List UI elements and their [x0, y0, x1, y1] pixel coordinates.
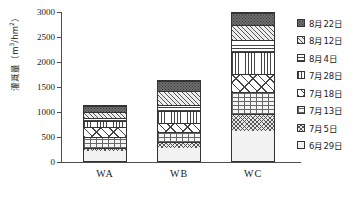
legend-item[interactable]: 8月12日 — [297, 32, 358, 50]
x-axis-tick-label-wb: WB — [149, 168, 209, 179]
y-axis-tick-label: 500 — [21, 133, 55, 142]
y-axis-tick-label: 2000 — [21, 58, 55, 67]
y-axis-tick-label: 1500 — [21, 83, 55, 92]
bar-segment — [232, 25, 274, 40]
y-axis-tick — [57, 62, 61, 63]
bar-segment — [232, 52, 274, 73]
y-axis-tick-label: 2500 — [21, 33, 55, 42]
bar-wc — [231, 12, 275, 162]
legend-label: 8月12日 — [309, 34, 343, 46]
legend-label: 7月13日 — [309, 104, 343, 116]
legend-swatch-icon — [297, 89, 305, 97]
legend-swatch-icon — [297, 54, 305, 62]
legend-label: 7月28日 — [309, 69, 343, 81]
bar-segment — [84, 137, 126, 147]
y-axis-title: 灌溉量（m3/hm2） — [8, 0, 20, 112]
bar-wa — [83, 105, 127, 162]
x-axis-tick-label-wa: WA — [75, 168, 135, 179]
y-axis-tick-labels: 050010001500200025003000 — [21, 12, 55, 162]
y-axis-tick — [57, 12, 61, 13]
legend-swatch-icon — [297, 19, 305, 27]
bar-segment — [232, 74, 274, 93]
y-axis-tick — [57, 87, 61, 88]
y-axis-tick — [57, 137, 61, 138]
y-axis-title-text: 灌溉量（m3/hm2） — [10, 13, 20, 90]
legend-swatch-icon — [297, 124, 305, 132]
y-axis-tick-label: 0 — [21, 158, 55, 167]
legend-item[interactable]: 7月13日 — [297, 102, 358, 120]
bar-segment — [158, 91, 200, 105]
bar-segment — [158, 111, 200, 123]
y-axis-tick — [57, 112, 61, 113]
legend-item[interactable]: 8月4日 — [297, 49, 358, 67]
legend-item[interactable]: 7月18日 — [297, 84, 358, 102]
legend-swatch-icon — [297, 141, 305, 149]
bar-segment — [232, 40, 274, 52]
legend-swatch-icon — [297, 71, 305, 79]
bar-segment — [232, 92, 274, 114]
y-axis-tick — [57, 37, 61, 38]
legend-label: 7月5日 — [309, 122, 338, 134]
y-axis-tick-label: 3000 — [21, 8, 55, 17]
legend-swatch-icon — [297, 106, 305, 114]
bar-segment — [158, 132, 200, 141]
legend-item[interactable]: 8月22日 — [297, 14, 358, 32]
bar-segment — [232, 131, 274, 161]
y-axis-tick-label: 1000 — [21, 108, 55, 117]
bar-segment — [84, 151, 126, 161]
bar-segment — [158, 142, 200, 149]
x-axis-tick-label-wc: WC — [223, 168, 283, 179]
legend-label: 6月29日 — [309, 139, 343, 151]
legend-swatch-icon — [297, 36, 305, 44]
legend-item[interactable]: 6月29日 — [297, 137, 358, 155]
bar-chart: 灌溉量（m3/hm2） 050010001500200025003000 WAW… — [0, 0, 358, 199]
legend-label: 8月22日 — [309, 17, 343, 29]
bar-segment — [158, 123, 200, 132]
bar-wb — [157, 80, 201, 162]
legend-label: 7月18日 — [309, 87, 343, 99]
x-axis-line — [61, 162, 301, 163]
bar-segment — [232, 13, 274, 25]
plot-area — [61, 12, 283, 162]
bar-segment — [158, 148, 200, 161]
y-axis-line — [61, 12, 62, 162]
y-axis-tick — [57, 162, 61, 163]
bar-segment — [158, 81, 200, 91]
legend-label: 8月4日 — [309, 52, 338, 64]
legend-item[interactable]: 7月28日 — [297, 67, 358, 85]
legend: 8月22日8月12日8月4日7月28日7月18日7月13日7月5日6月29日 — [297, 14, 358, 154]
bar-segment — [84, 127, 126, 137]
bar-segment — [232, 114, 274, 131]
legend-item[interactable]: 7月5日 — [297, 119, 358, 137]
